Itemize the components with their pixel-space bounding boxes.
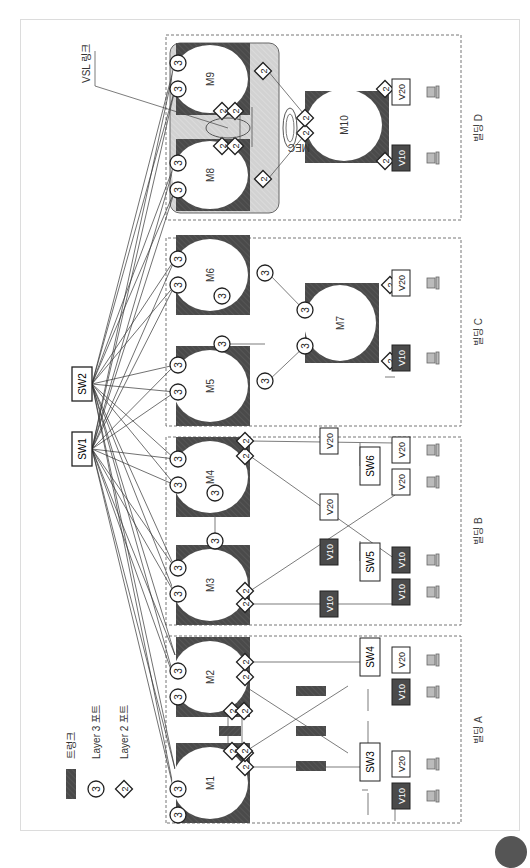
page-indicator: [495, 836, 527, 868]
diagram-frame: [20, 19, 520, 831]
